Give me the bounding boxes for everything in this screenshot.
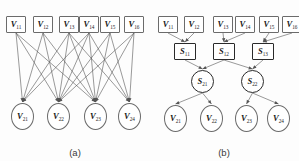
node-label-subscript: 22 — [252, 81, 257, 87]
node-label: S13 — [258, 47, 268, 56]
node-label-subscript: 24 — [130, 116, 135, 122]
graph-edge — [59, 33, 70, 102]
node-v11: V11 — [158, 16, 178, 33]
node-s12: S12 — [213, 43, 235, 60]
graph-edge — [263, 33, 292, 42]
panel-a: V11V12V13V14V15V16V21V22V23V24 (a) — [0, 0, 150, 161]
node-label: V14 — [240, 20, 251, 29]
node-label-subscript: 16 — [292, 24, 297, 30]
node-v16: V16 — [124, 16, 144, 33]
node-label-subscript: 11 — [168, 24, 173, 30]
node-v21: V21 — [11, 103, 34, 130]
node-v22: V22 — [47, 103, 70, 130]
node-v15: V15 — [100, 16, 120, 33]
graph-edge — [253, 93, 279, 104]
node-v23: V23 — [235, 105, 258, 132]
node-label: V24 — [124, 112, 135, 121]
graph-edge — [110, 33, 130, 102]
node-label-subscript: 23 — [247, 118, 252, 124]
node-label: V21 — [17, 112, 28, 121]
node-label-subscript: 12 — [224, 51, 229, 57]
panel-b-caption: (b) — [149, 147, 299, 158]
node-label: V15 — [264, 20, 275, 29]
node-v23: V23 — [84, 103, 107, 130]
graph-edge — [89, 33, 96, 102]
node-label: V23 — [90, 112, 101, 121]
node-v24: V24 — [267, 105, 290, 132]
node-v13: V13 — [59, 16, 79, 33]
node-v21: V21 — [164, 105, 187, 132]
node-label-subscript: 22 — [212, 118, 217, 124]
node-label: V13 — [64, 20, 75, 29]
node-s21: S21 — [191, 70, 214, 93]
node-label-subscript: 24 — [279, 118, 284, 124]
node-v12: V12 — [33, 16, 53, 33]
node-v11: V11 — [6, 16, 26, 33]
node-v12: V12 — [184, 16, 204, 33]
node-label-subscript: 21 — [176, 118, 181, 124]
node-label-subscript: 14 — [89, 24, 94, 30]
node-v13: V13 — [213, 16, 233, 33]
graph-edge — [96, 33, 111, 102]
node-label-subscript: 12 — [43, 24, 48, 30]
node-label-subscript: 21 — [202, 81, 207, 87]
node-label: S12 — [219, 47, 229, 56]
node-label-subscript: 16 — [134, 24, 139, 30]
node-label-subscript: 14 — [245, 24, 250, 30]
node-label: V23 — [241, 114, 252, 123]
node-v16: V16 — [282, 16, 299, 33]
panel-a-caption: (a) — [0, 147, 150, 158]
node-v15: V15 — [259, 16, 279, 33]
graph-edge — [69, 33, 130, 102]
node-label-subscript: 21 — [23, 116, 28, 122]
edge-arrowhead — [248, 66, 252, 69]
graph-edge — [23, 33, 70, 102]
graph-edge — [96, 33, 135, 102]
node-label: S22 — [248, 77, 258, 86]
node-label: S21 — [198, 77, 208, 86]
node-label: V16 — [129, 20, 140, 29]
node-label-subscript: 11 — [185, 51, 190, 57]
node-label: S11 — [180, 47, 190, 56]
graph-edge — [89, 33, 130, 102]
node-label: V14 — [84, 20, 95, 29]
node-label-subscript: 15 — [269, 24, 274, 30]
node-label-subscript: 22 — [59, 116, 64, 122]
node-s13: S13 — [252, 43, 274, 60]
panel-b: V11V12V13V14V15V16S11S12S13S21S22V21V22V… — [149, 0, 299, 161]
node-label-subscript: 15 — [110, 24, 115, 30]
node-label-subscript: 13 — [263, 51, 268, 57]
graph-edge — [16, 33, 59, 102]
node-label-subscript: 12 — [194, 24, 199, 30]
graph-edge — [16, 33, 23, 102]
node-label: V21 — [170, 114, 181, 123]
graph-edge — [130, 33, 135, 102]
node-label: V11 — [11, 20, 22, 29]
node-s22: S22 — [241, 70, 264, 93]
node-label: V11 — [163, 20, 174, 29]
node-label-subscript: 11 — [16, 24, 21, 30]
node-label: V13 — [218, 20, 229, 29]
node-label: V22 — [206, 114, 217, 123]
node-label-subscript: 13 — [69, 24, 74, 30]
node-v22: V22 — [200, 105, 223, 132]
graph-edge — [69, 33, 96, 102]
node-v24: V24 — [118, 103, 141, 130]
node-s11: S11 — [174, 43, 196, 60]
graph-edge — [176, 93, 203, 104]
node-label-subscript: 23 — [96, 116, 101, 122]
graph-edge — [224, 60, 253, 69]
node-label: V12 — [38, 20, 49, 29]
node-label: V16 — [287, 20, 298, 29]
node-label-subscript: 13 — [223, 24, 228, 30]
node-label: V12 — [189, 20, 200, 29]
graph-edge — [59, 33, 135, 102]
node-label: V24 — [273, 114, 284, 123]
node-label: V15 — [105, 20, 116, 29]
node-label: V22 — [53, 112, 64, 121]
node-v14: V14 — [79, 16, 99, 33]
node-v14: V14 — [235, 16, 255, 33]
figure-container: V11V12V13V14V15V16V21V22V23V24 (a) V11V1… — [0, 0, 299, 161]
